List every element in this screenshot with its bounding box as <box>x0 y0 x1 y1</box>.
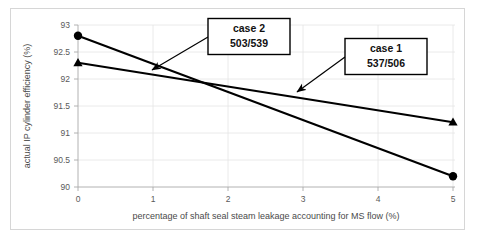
annotation-case-1-leader <box>297 57 345 92</box>
y-tick-label-92: 92 <box>61 74 71 84</box>
series-case-1-marker-x0 <box>73 58 82 66</box>
annotation-case-2-line2: 503/539 <box>230 37 268 49</box>
annotation-case-1-line2: 537/506 <box>367 57 405 69</box>
annotation-case-1: case 1 537/506 <box>297 39 427 93</box>
chart-figure: 93 92.5 92 91.5 91 90.5 90 0 1 2 3 4 5 p… <box>0 0 487 251</box>
annotation-case-2-leader <box>152 37 208 70</box>
x-axis-title: percentage of shaft seal steam leakage a… <box>132 211 399 221</box>
annotation-case-1-line1: case 1 <box>370 42 402 54</box>
y-tick-label-90_5: 90.5 <box>53 155 70 165</box>
x-tick-label-3: 3 <box>301 194 306 204</box>
annotation-case-2: case 2 503/539 <box>152 19 290 71</box>
y-axis-title: actual IP cylinder efficiency (%) <box>22 44 32 169</box>
x-tick-label-1: 1 <box>151 194 156 204</box>
x-tick-label-4: 4 <box>376 194 381 204</box>
y-tick-label-91_5: 91.5 <box>53 101 70 111</box>
x-tick-label-0: 0 <box>76 194 81 204</box>
x-axis-tick-labels: 0 1 2 3 4 5 <box>76 194 456 204</box>
x-tick-label-2: 2 <box>226 194 231 204</box>
y-tick-label-93: 93 <box>61 20 71 30</box>
series-case-2-marker-x5 <box>449 172 457 180</box>
y-tick-label-90: 90 <box>61 182 71 192</box>
y-tick-label-91: 91 <box>61 128 71 138</box>
line-chart: 93 92.5 92 91.5 91 90.5 90 0 1 2 3 4 5 p… <box>0 0 487 251</box>
y-axis-tick-labels: 93 92.5 92 91.5 91 90.5 90 <box>53 20 70 192</box>
y-tick-label-92_5: 92.5 <box>53 47 70 57</box>
annotation-case-2-line1: case 2 <box>233 22 265 34</box>
y-axis-ticks <box>74 25 78 187</box>
series-case-2-marker-x0 <box>74 32 82 40</box>
x-axis-ticks <box>78 187 453 191</box>
x-tick-label-5: 5 <box>451 194 456 204</box>
